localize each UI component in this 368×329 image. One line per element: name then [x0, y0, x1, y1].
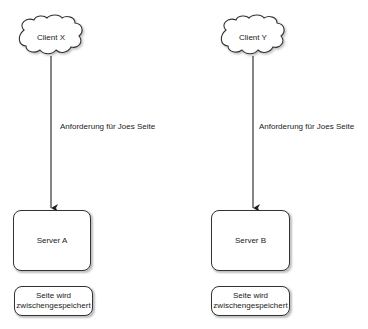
cache-note-right-line2: zwischengespeichert — [213, 301, 287, 311]
cache-note-right: Seite wird zwischengespeichert — [211, 286, 290, 316]
cache-note-left-line2: zwischengespeichert — [16, 301, 90, 311]
server-b-box: Server B — [211, 210, 290, 271]
client-x-label: Client X — [28, 33, 74, 42]
cache-note-left-line1: Seite wird — [36, 291, 71, 301]
edge-label-left: Anforderung für Joes Seite — [60, 122, 155, 131]
server-a-label: Server A — [37, 236, 68, 246]
server-b-label: Server B — [235, 236, 266, 246]
cache-note-right-line1: Seite wird — [233, 291, 268, 301]
edge-label-right: Anforderung für Joes Seite — [259, 122, 354, 131]
client-y-label: Client Y — [230, 33, 276, 42]
cache-note-left: Seite wird zwischengespeichert — [14, 286, 93, 316]
server-a-box: Server A — [13, 210, 91, 271]
diagram-canvas — [0, 0, 368, 329]
